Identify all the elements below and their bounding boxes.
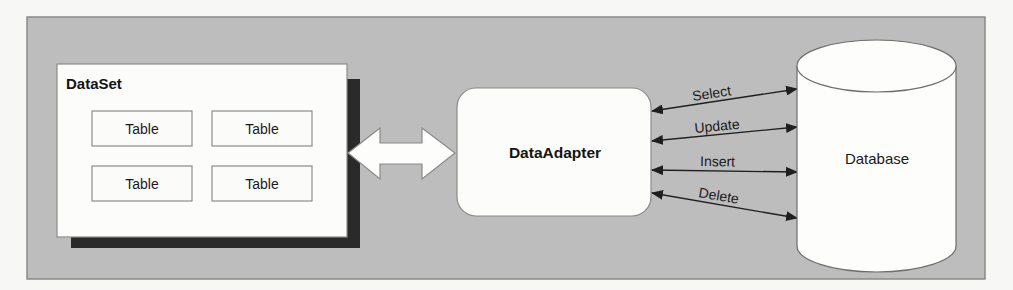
table-box: Table — [92, 111, 192, 146]
insert-label: Insert — [700, 153, 735, 169]
database: Database — [797, 40, 956, 272]
data-adapter-label: DataAdapter — [509, 144, 601, 161]
table-box: Table — [212, 166, 312, 201]
table-box: Table — [212, 111, 312, 146]
data-adapter: DataAdapter — [457, 88, 651, 216]
dataset-container: DataSet Table Table Table Table — [57, 64, 360, 248]
database-cylinder-top — [797, 40, 956, 92]
dataset-label: DataSet — [66, 75, 122, 92]
table-label: Table — [125, 121, 159, 137]
table-label: Table — [125, 176, 159, 192]
dataset-adapter-architecture-diagram: DataSet Table Table Table Table DataAdap… — [0, 0, 1013, 290]
database-label: Database — [845, 150, 909, 167]
database-cylinder-body — [797, 66, 956, 272]
table-label: Table — [245, 121, 279, 137]
table-box: Table — [92, 166, 192, 201]
table-label: Table — [245, 176, 279, 192]
